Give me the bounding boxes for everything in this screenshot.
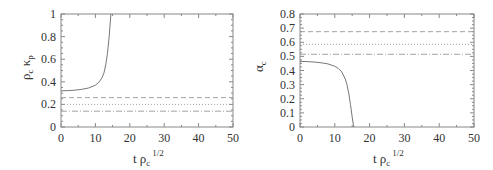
x-tick-label: 20 [124,131,136,145]
x-tick-label: 40 [193,131,205,145]
x-tick-label: 40 [433,131,445,145]
y-tick-label: 0.7 [280,21,295,35]
y-tick-label: 0.2 [41,97,56,111]
y-tick-label: 0.8 [280,7,295,21]
left-series-solid [61,14,111,91]
x-tick-label: 50 [468,131,480,145]
x-tick-label: 0 [297,131,303,145]
left-y-axis-label: ρc κp [18,55,35,80]
y-tick-label: 0 [50,120,56,134]
y-tick-label: 0.8 [41,30,56,44]
x-tick-label: 30 [398,131,410,145]
y-tick-label: 0.6 [280,35,295,49]
right-x-axis-label: t ρc1/2 [373,148,404,168]
y-tick-label: 1 [50,7,56,21]
right-y-axis-label: αc [251,61,268,72]
x-tick-label: 10 [329,131,341,145]
right-series-solid [300,61,354,127]
x-tick-label: 10 [89,131,101,145]
y-tick-label: 0.4 [41,75,56,89]
x-tick-label: 30 [158,131,170,145]
y-tick-label: 0.1 [280,106,295,120]
right-plot: 0102030405000.10.20.30.40.50.60.70.8 [280,7,480,145]
x-tick-label: 20 [364,131,376,145]
left-plot: 0102030405000.20.40.60.81 [41,7,239,145]
figure: 0102030405000.20.40.60.81 0102030405000.… [0,0,493,170]
y-tick-label: 0.2 [280,92,295,106]
left-plot-frame [61,14,233,127]
left-x-axis-label: t ρc1/2 [133,148,164,168]
right-plot-frame [300,14,474,127]
x-tick-label: 50 [227,131,239,145]
y-tick-label: 0 [289,120,295,134]
y-tick-label: 0.5 [280,49,295,63]
y-tick-label: 0.6 [41,52,56,66]
x-tick-label: 0 [58,131,64,145]
y-tick-label: 0.3 [280,78,295,92]
y-tick-label: 0.4 [280,64,295,78]
